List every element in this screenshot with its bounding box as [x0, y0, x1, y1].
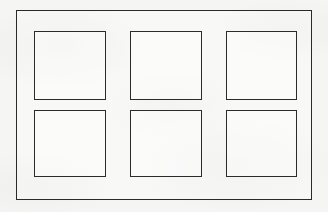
grid-cell-row2-col3	[226, 110, 297, 177]
grid-cell-row2-col1	[34, 110, 106, 177]
diagram-canvas	[0, 0, 328, 212]
grid-cell-row1-col1	[34, 31, 106, 100]
grid-cell-row1-col3	[226, 31, 297, 100]
grid-cell-row1-col2	[130, 31, 202, 100]
grid-container	[34, 31, 297, 177]
grid-cell-row2-col2	[130, 110, 202, 177]
